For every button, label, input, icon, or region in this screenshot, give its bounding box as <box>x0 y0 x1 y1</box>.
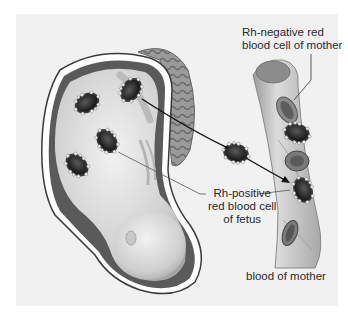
label-rh-positive: Rh-positive red blood cell of fetus <box>208 187 276 226</box>
label-line: blood cell of mother <box>242 39 342 52</box>
label-line: Rh-negative red <box>242 26 342 39</box>
label-blood-of-mother: blood of mother <box>246 270 326 283</box>
fetus-ear <box>126 231 136 245</box>
fetus-head <box>114 211 186 279</box>
label-line: Rh-positive <box>208 187 276 200</box>
label-line: of fetus <box>208 213 276 226</box>
label-rh-negative: Rh-negative red blood cell of mother <box>242 26 342 52</box>
maternal-rbc-2 <box>285 151 309 171</box>
crossing-rbc <box>219 138 253 167</box>
label-line: red blood cell <box>208 200 276 213</box>
